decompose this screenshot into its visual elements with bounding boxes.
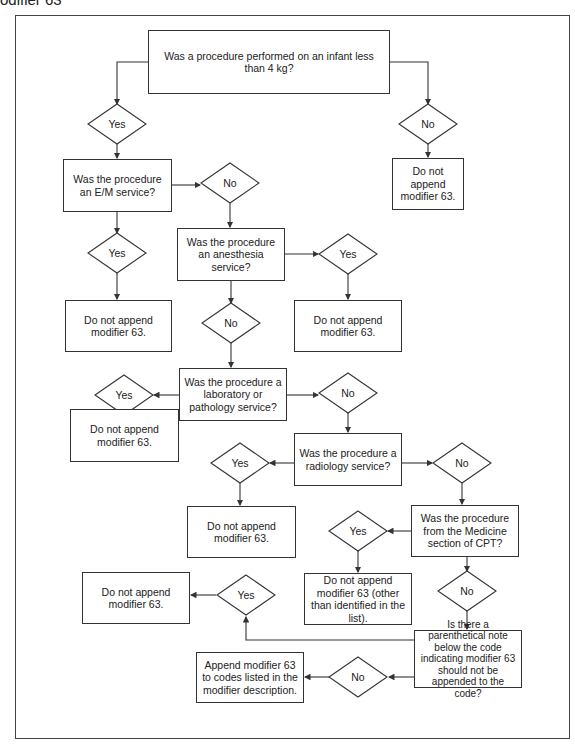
decision-infant-yes: Yes bbox=[108, 118, 125, 130]
decision-medicine-yes: Yes bbox=[349, 525, 366, 537]
result-radiology-yes: Do not append modifier 63. bbox=[187, 506, 296, 558]
question-infant: Was a procedure performed on an infant l… bbox=[148, 30, 390, 94]
decision-parenthetical-yes: Yes bbox=[237, 589, 254, 601]
question-radiology: Was the procedure a radiology service? bbox=[294, 433, 402, 486]
decision-em-no: No bbox=[223, 177, 236, 189]
decision-infant-no: No bbox=[421, 118, 434, 130]
decision-lab-no: No bbox=[341, 387, 354, 399]
decision-anesthesia-no: No bbox=[224, 317, 237, 329]
result-parenthetical-no: Append modifier 63 to codes listed in th… bbox=[196, 652, 304, 703]
decision-em-yes: Yes bbox=[108, 247, 125, 259]
question-lab: Was the procedure a laboratory or pathol… bbox=[179, 368, 287, 421]
question-medicine: Was the procedure from the Medicine sect… bbox=[411, 505, 519, 557]
decision-radiology-yes: Yes bbox=[231, 457, 248, 469]
question-anesthesia: Was the procedure an anesthesia service? bbox=[177, 228, 285, 281]
question-parenthetical: Is there a parenthetical note below the … bbox=[414, 630, 522, 688]
result-medicine-yes: Do not append modifier 63 (other than id… bbox=[304, 573, 412, 625]
result-infant-no: Do not append modifier 63. bbox=[392, 158, 464, 210]
decision-lab-yes: Yes bbox=[115, 389, 132, 401]
question-em: Was the procedure an E/M service? bbox=[63, 159, 172, 212]
result-anesthesia-yes: Do not append modifier 63. bbox=[294, 300, 402, 352]
result-em-yes: Do not append modifier 63. bbox=[65, 300, 172, 352]
result-parenthetical-yes: Do not append modifier 63. bbox=[82, 572, 190, 624]
decision-radiology-no: No bbox=[455, 457, 468, 469]
result-lab-yes: Do not append modifier 63. bbox=[70, 409, 179, 462]
decision-anesthesia-yes: Yes bbox=[339, 248, 356, 260]
decision-parenthetical-no: No bbox=[351, 671, 364, 683]
decision-medicine-no: No bbox=[460, 585, 473, 597]
